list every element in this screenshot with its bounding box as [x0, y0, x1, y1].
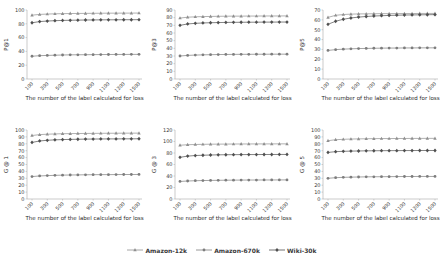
x-axis-ticks: 100300500700900110013001500	[24, 199, 141, 213]
svg-text:10: 10	[314, 66, 320, 72]
y-axis-label: G @ 5	[299, 156, 305, 173]
svg-text:60: 60	[18, 34, 24, 40]
chart-g-at-1: 0102030405060708090100100300500700900110…	[0, 122, 148, 242]
svg-text:60: 60	[314, 154, 320, 160]
svg-text:40: 40	[314, 168, 320, 174]
chart-cell-p-at-1: 020406080100100300500700900110013001500P…	[0, 2, 148, 122]
series-wiki-30k	[178, 20, 288, 27]
svg-text:900: 900	[233, 81, 243, 91]
x-axis-ticks: 100300500700900110013001500	[24, 79, 141, 93]
svg-text:60: 60	[166, 30, 172, 36]
svg-text:40: 40	[166, 173, 172, 179]
svg-text:1300: 1300	[262, 81, 274, 93]
series-amazon-670k	[31, 173, 141, 178]
metrics-figure: 020406080100100300500700900110013001500P…	[0, 0, 445, 262]
svg-text:0: 0	[21, 196, 24, 202]
svg-text:80: 80	[18, 21, 24, 27]
x-axis-label: The number of the label calculated for l…	[24, 215, 143, 221]
svg-text:500: 500	[203, 81, 213, 91]
svg-text:10: 10	[18, 189, 24, 195]
svg-text:0: 0	[317, 196, 320, 202]
svg-text:40: 40	[18, 48, 24, 54]
svg-text:20: 20	[166, 60, 172, 66]
svg-text:500: 500	[203, 201, 213, 211]
series-amazon-12k	[30, 11, 140, 16]
svg-text:1500: 1500	[425, 201, 437, 213]
svg-text:70: 70	[314, 148, 320, 154]
series-amazon-670k	[179, 179, 289, 183]
svg-text:1300: 1300	[410, 81, 422, 93]
svg-text:1100: 1100	[246, 201, 258, 213]
chart-cell-g-at-3: 0204060801001201003005007009001100130015…	[148, 122, 296, 242]
svg-text:1500: 1500	[277, 201, 289, 213]
legend-label-wiki-30k: Wiki-30k	[287, 247, 317, 254]
svg-text:40: 40	[314, 36, 320, 42]
x-axis-ticks: 100300500700900110013001500	[172, 199, 289, 213]
svg-text:300: 300	[39, 81, 49, 91]
svg-text:50: 50	[18, 161, 24, 167]
svg-text:500: 500	[351, 201, 361, 211]
series-wiki-30k	[326, 149, 436, 155]
svg-text:0: 0	[317, 76, 320, 82]
svg-text:1500: 1500	[129, 201, 141, 213]
svg-text:1500: 1500	[277, 81, 289, 93]
svg-text:300: 300	[187, 201, 197, 211]
legend-item-wiki-30k: Wiki-30k	[269, 246, 317, 254]
svg-text:700: 700	[70, 201, 80, 211]
svg-text:30: 30	[314, 175, 320, 181]
x-axis-ticks: 100300500700900110013001500	[320, 79, 437, 93]
legend-marker-wiki-30k-icon	[269, 246, 285, 254]
svg-text:10: 10	[166, 68, 172, 74]
x-axis-label: The number of the label calculated for l…	[24, 95, 143, 101]
svg-text:80: 80	[166, 150, 172, 156]
svg-text:30: 30	[18, 175, 24, 181]
series-amazon-12k	[30, 131, 140, 137]
svg-text:40: 40	[18, 168, 24, 174]
svg-text:100: 100	[163, 138, 173, 144]
svg-text:100: 100	[15, 127, 25, 133]
svg-text:900: 900	[85, 81, 95, 91]
chart-p-at-1: 020406080100100300500700900110013001500P…	[0, 2, 148, 122]
axes	[175, 130, 290, 199]
series-amazon-670k	[31, 53, 141, 58]
x-axis-label: The number of the label calculated for l…	[172, 95, 291, 101]
legend-item-amazon-12k: Amazon-12k	[127, 246, 187, 254]
svg-text:90: 90	[18, 134, 24, 140]
series-wiki-30k	[30, 137, 140, 144]
series-amazon-670k	[327, 46, 437, 51]
legend-marker-amazon-12k-icon	[127, 246, 143, 254]
series-wiki-30k	[178, 153, 288, 160]
svg-text:0: 0	[169, 76, 172, 82]
svg-text:300: 300	[187, 81, 197, 91]
svg-text:1100: 1100	[246, 81, 258, 93]
x-axis-ticks: 100300500700900110013001500	[172, 79, 289, 93]
svg-text:30: 30	[314, 46, 320, 52]
svg-text:60: 60	[18, 154, 24, 160]
svg-text:80: 80	[314, 141, 320, 147]
svg-text:900: 900	[233, 201, 243, 211]
x-axis-ticks: 100300500700900110013001500	[320, 199, 437, 213]
y-axis-ticks: 020406080100120	[163, 127, 175, 202]
axes	[175, 10, 290, 79]
y-axis-ticks: 020406080100	[15, 7, 27, 82]
svg-text:90: 90	[166, 7, 172, 13]
y-axis-label: P@3	[151, 38, 157, 51]
svg-text:100: 100	[172, 81, 182, 91]
svg-text:120: 120	[163, 127, 173, 133]
svg-text:500: 500	[351, 81, 361, 91]
svg-text:60: 60	[166, 161, 172, 167]
series-amazon-670k	[327, 175, 437, 180]
svg-text:1300: 1300	[262, 201, 274, 213]
series-amazon-12k	[178, 142, 288, 147]
x-axis-label: The number of the label calculated for l…	[320, 95, 439, 101]
svg-text:80: 80	[166, 14, 172, 20]
svg-text:300: 300	[39, 201, 49, 211]
svg-text:700: 700	[70, 81, 80, 91]
svg-text:700: 700	[366, 201, 376, 211]
svg-text:300: 300	[335, 201, 345, 211]
chart-p-at-5: 0102030405060701003005007009001100130015…	[296, 2, 444, 122]
chart-cell-p-at-3: 0102030405060708090100300500700900110013…	[148, 2, 296, 122]
svg-text:20: 20	[18, 62, 24, 68]
svg-text:80: 80	[18, 141, 24, 147]
series-amazon-12k	[178, 14, 288, 19]
